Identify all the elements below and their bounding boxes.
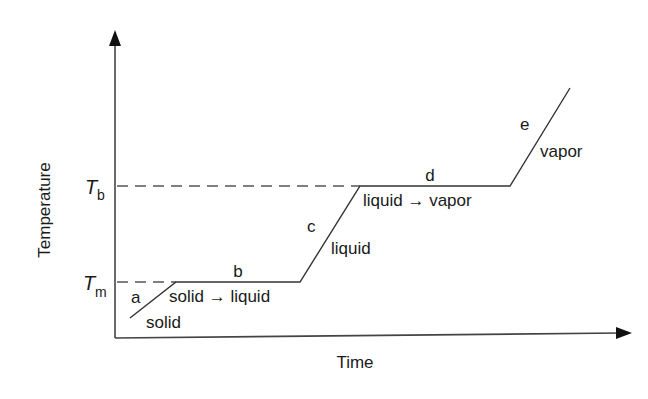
segment-e-phase: vapor: [540, 142, 583, 161]
y-axis-arrow-icon: [109, 30, 121, 46]
melting-point-subscript: m: [95, 284, 107, 300]
x-axis: [115, 333, 620, 338]
segment-c-phase: liquid: [331, 239, 371, 258]
segment-a-phase: solid: [146, 313, 181, 332]
x-axis-label: Time: [336, 353, 373, 372]
heating-curve: [130, 88, 570, 318]
segment-a-letter: a: [131, 288, 141, 307]
segment-b-phase: solid → liquid: [169, 287, 270, 306]
segment-c-letter: c: [307, 217, 316, 236]
segment-e-letter: e: [520, 115, 529, 134]
heating-curve-diagram: Time Temperature T b T m a solid b solid…: [0, 0, 648, 399]
y-axis-label: Temperature: [35, 162, 54, 257]
boiling-point-subscript: b: [97, 187, 105, 203]
x-axis-arrow-icon: [616, 327, 632, 339]
segment-d-phase: liquid → vapor: [363, 191, 472, 210]
segment-b-letter: b: [233, 262, 242, 281]
segment-d-letter: d: [425, 166, 434, 185]
